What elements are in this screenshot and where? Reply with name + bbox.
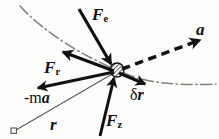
label-inertial-force-prefix: -m — [24, 89, 42, 106]
label-force-reaction-sub: r — [56, 66, 61, 77]
label-acceleration: a — [196, 21, 205, 38]
particle-body — [110, 63, 124, 77]
label-position-vector: r — [50, 116, 57, 133]
label-position-vector-base: r — [50, 115, 57, 134]
label-force-reaction-base: F — [44, 58, 55, 77]
label-inertial-force: -ma — [24, 90, 50, 106]
label-force-constraint-sub: z — [118, 119, 123, 130]
vector-acceleration-a — [122, 40, 200, 69]
label-force-applied-sub: e — [104, 13, 109, 24]
label-force-applied-base: F — [92, 5, 103, 24]
label-inertial-force-base: a — [42, 89, 50, 106]
label-virtual-displacement: δr — [130, 87, 144, 103]
label-force-applied: Fe — [92, 6, 108, 25]
label-force-constraint-base: F — [106, 111, 117, 130]
trajectory-curve-right — [124, 73, 216, 85]
label-force-constraint: Fz — [106, 112, 122, 131]
force-diagram-figure: Fe Fr -ma δr Fz a r — [0, 0, 219, 139]
label-virtual-displacement-prefix: δ — [130, 86, 138, 103]
label-acceleration-base: a — [196, 20, 205, 39]
origin-marker — [11, 128, 16, 133]
label-force-reaction: Fr — [44, 59, 60, 78]
label-virtual-displacement-base: r — [138, 86, 144, 103]
